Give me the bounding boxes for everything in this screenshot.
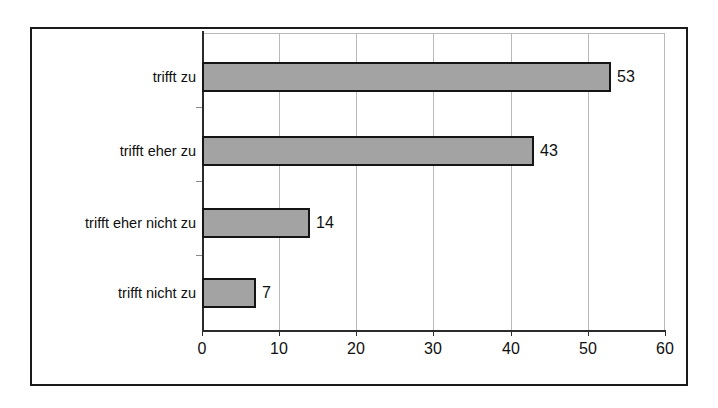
tick-mark-50 <box>588 330 589 336</box>
bar-chart-figure: 53 43 14 7 trifft zu trifft eher zu trif… <box>0 0 718 408</box>
bar-value-label-3: 7 <box>262 278 271 308</box>
xtick-label-10: 10 <box>259 340 299 358</box>
xtick-label-40: 40 <box>491 340 531 358</box>
tick-mark-10 <box>279 330 280 336</box>
xtick-label-30: 30 <box>413 340 453 358</box>
tick-mark-40 <box>511 330 512 336</box>
tick-mark-20 <box>356 330 357 336</box>
bar-value-label-0: 53 <box>617 62 635 92</box>
xtick-label-60: 60 <box>645 340 685 358</box>
category-tick-1 <box>196 107 202 108</box>
bar-value-label-2: 14 <box>316 208 334 238</box>
tick-mark-30 <box>433 330 434 336</box>
xtick-label-50: 50 <box>568 340 608 358</box>
tick-mark-60 <box>665 330 666 336</box>
category-axis-line <box>202 330 666 332</box>
xtick-label-0: 0 <box>182 340 222 358</box>
category-label-trifft-eher-nicht-zu: trifft eher nicht zu <box>36 208 196 238</box>
category-label-trifft-zu: trifft zu <box>36 62 196 92</box>
category-tick-3 <box>196 255 202 256</box>
category-label-trifft-eher-zu: trifft eher zu <box>36 136 196 166</box>
bar-trifft-eher-nicht-zu[interactable] <box>202 208 310 238</box>
bar-trifft-nicht-zu[interactable] <box>202 278 256 308</box>
xtick-label-20: 20 <box>336 340 376 358</box>
tick-mark-0 <box>202 330 203 336</box>
bar-trifft-zu[interactable] <box>202 62 611 92</box>
category-label-trifft-nicht-zu: trifft nicht zu <box>36 278 196 308</box>
category-tick-2 <box>196 181 202 182</box>
bar-value-label-1: 43 <box>540 136 558 166</box>
bar-trifft-eher-zu[interactable] <box>202 136 534 166</box>
